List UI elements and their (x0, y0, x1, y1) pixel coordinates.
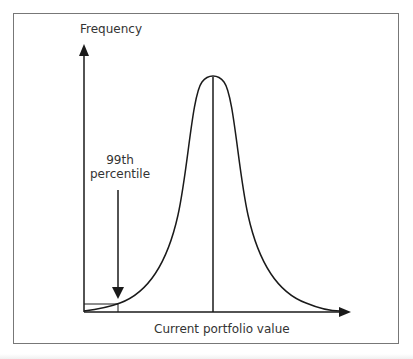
x-axis-label: Current portfolio value (154, 322, 290, 336)
percentile-label: 99th percentile (90, 153, 150, 181)
percentile-label-line2: percentile (90, 167, 150, 181)
percentile-arrow-icon (112, 287, 124, 299)
x-axis-arrow-icon (339, 307, 351, 317)
y-axis-label: Frequency (80, 22, 142, 36)
percentile-label-line1: 99th (90, 153, 150, 167)
distribution-diagram (0, 0, 413, 359)
bottom-shadow (0, 354, 413, 359)
y-axis-arrow-icon (79, 44, 89, 56)
distribution-curve (84, 76, 340, 311)
